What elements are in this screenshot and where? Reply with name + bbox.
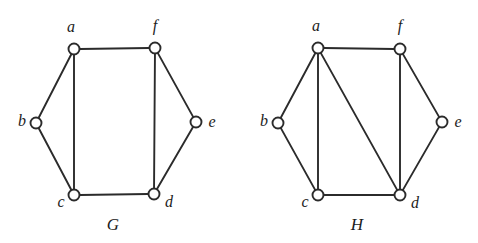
vertex-label-f: f <box>153 17 160 35</box>
graph-vertex-d <box>149 189 160 200</box>
graph-vertex-a <box>69 44 80 55</box>
vertex-label-a: a <box>67 18 75 35</box>
graph-h: abcdefH <box>260 17 462 234</box>
graph-h-edges <box>281 48 439 195</box>
vertex-label-e: e <box>454 113 461 130</box>
graph-caption-h: H <box>350 215 365 234</box>
graph-vertex-f <box>395 44 406 55</box>
vertex-label-b: b <box>260 112 268 129</box>
graph-vertex-a <box>313 43 324 54</box>
graph-edge-ad <box>321 53 397 190</box>
vertex-label-f: f <box>398 17 405 35</box>
vertex-label-b: b <box>18 112 26 129</box>
vertex-label-d: d <box>411 194 420 211</box>
graph-vertex-c <box>69 190 80 201</box>
graph-edge-af <box>80 48 149 49</box>
graph-vertex-b <box>31 118 42 129</box>
graph-edge-ef <box>403 54 439 117</box>
graph-edge-ef <box>158 53 193 117</box>
graph-g-edges <box>39 48 193 195</box>
graph-vertex-d <box>395 190 406 201</box>
graph-edge-af <box>324 48 394 49</box>
vertex-label-c: c <box>57 193 64 210</box>
graph-edge-de <box>403 127 439 190</box>
graph-edge-bc <box>39 128 71 190</box>
vertex-label-c: c <box>301 193 308 210</box>
graph-vertex-f <box>150 43 161 54</box>
vertex-label-a: a <box>312 17 320 34</box>
graph-figure-canvas: abcdefGabcdefH <box>0 0 478 243</box>
graph-vertex-e <box>191 117 202 128</box>
vertex-label-d: d <box>165 193 174 210</box>
graph-edge-bc <box>281 128 315 190</box>
graph-edge-ab <box>281 53 315 118</box>
graph-vertex-c <box>313 190 324 201</box>
graph-edge-ab <box>39 54 72 118</box>
graph-vertex-e <box>437 117 448 128</box>
figure-root: abcdefGabcdefH <box>0 0 478 243</box>
graph-caption-g: G <box>107 215 119 234</box>
graph-edge-cd <box>80 194 148 195</box>
vertex-label-e: e <box>208 113 215 130</box>
graphs-layer: abcdefGabcdefH <box>18 17 462 234</box>
graph-edge-df <box>154 54 155 188</box>
graph-vertex-b <box>273 118 284 129</box>
graph-edge-de <box>157 127 193 189</box>
graph-g: abcdefG <box>18 17 216 234</box>
